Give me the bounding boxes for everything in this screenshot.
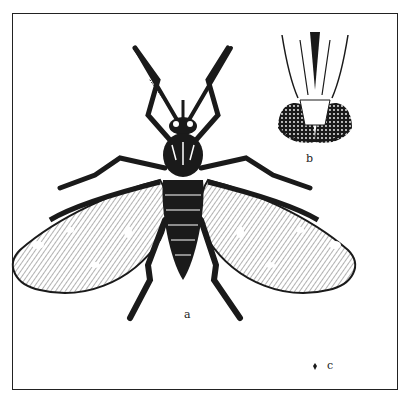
label-c: c [327, 359, 333, 372]
label-a: a [184, 308, 191, 321]
head-detail [278, 32, 352, 143]
thorax [163, 133, 203, 177]
head [169, 100, 197, 135]
insect-illustration [0, 0, 408, 401]
left-wing [13, 180, 168, 293]
label-b: b [306, 152, 313, 165]
abdomen [162, 180, 203, 280]
size-marker [313, 363, 317, 370]
right-wing [201, 180, 356, 293]
